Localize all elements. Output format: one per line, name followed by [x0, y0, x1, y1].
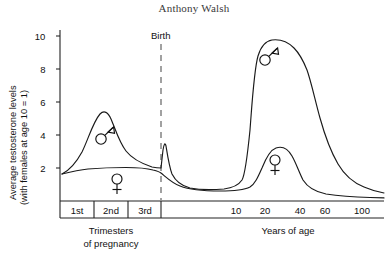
years-label-10: 10: [231, 205, 242, 216]
y-tick-label-10: 10: [35, 31, 46, 42]
male-symbol-adult-icon: [260, 48, 279, 65]
years-label-40: 40: [295, 205, 306, 216]
trimester-tick-labels: 1st 2nd 3rd: [71, 205, 152, 216]
y-tick-label-2: 2: [40, 163, 45, 174]
chart-figure: Anthony Walsh Average testosterone level…: [0, 0, 388, 266]
trimester-label-1st: 1st: [71, 205, 84, 216]
years-label-20: 20: [260, 205, 271, 216]
y-tick-label-4: 4: [40, 130, 45, 141]
y-tick-label-6: 6: [40, 97, 45, 108]
years-label-60: 60: [320, 205, 331, 216]
prenatal-axis-title: Trimesters of pregnancy: [84, 225, 139, 249]
page-title: Anthony Walsh: [0, 2, 388, 14]
chart-canvas: Average testosterone levels (with female…: [0, 0, 388, 266]
y-axis-label: Average testosterone levels (with female…: [8, 85, 29, 205]
years-label-100: 100: [354, 205, 370, 216]
y-axis-label-line2: (with females at age 10 = 1): [19, 90, 29, 205]
y-axis-ticks: 10 8 6 4 2: [35, 31, 60, 174]
prenatal-axis-title-line2: of pregnancy: [84, 238, 139, 249]
y-axis-label-line1: Average testosterone levels: [8, 85, 18, 200]
prenatal-axis-title-line1: Trimesters: [89, 225, 134, 236]
birth-label: Birth: [151, 30, 171, 41]
female-symbol-prenatal-icon: [112, 174, 122, 194]
postnatal-axis-title: Years of age: [262, 225, 315, 236]
trimester-label-2nd: 2nd: [103, 205, 119, 216]
female-symbol-adult-icon: [270, 155, 280, 175]
years-tick-labels: 10 20 40 60 100: [231, 205, 370, 216]
male-symbol-prenatal-icon: [96, 127, 115, 144]
male-curve: [62, 40, 384, 193]
trimester-label-3rd: 3rd: [138, 205, 152, 216]
y-tick-label-8: 8: [40, 64, 45, 75]
female-curve: [62, 147, 384, 198]
